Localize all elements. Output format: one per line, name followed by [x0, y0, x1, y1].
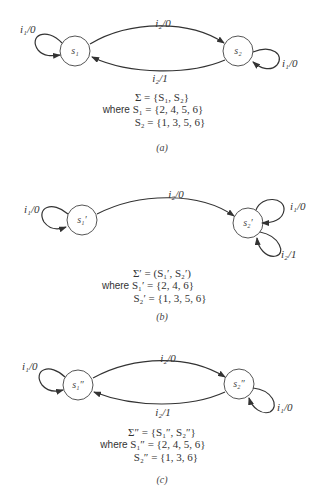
- equations-a: Σ = {S₁, S₂} where S₁ = {2, 4, 5, 6} S₂ …: [0, 91, 324, 128]
- caption-b: (b): [0, 311, 324, 322]
- state-s1-prime-label: s₁′: [77, 214, 87, 225]
- state-diagrams-canvas: s₁ s₂ i₁/0 i₂/0 i₂/1 i₁/0 s₁′ s₂′ i₁/0 i…: [0, 0, 324, 495]
- s1-set-b-line: where S₁′ = {2, 4, 6}: [0, 279, 324, 292]
- s1-set-a-line: where S₁ = {2, 4, 5, 6}: [0, 103, 324, 116]
- diagram-b: s₁′ s₂′ i₁/0 i₂/0 i₁/0 i₂/1: [24, 188, 306, 260]
- s2-double-prime-self-loop-arrow: [249, 388, 274, 413]
- s2-self-loop-label: i₁/0: [282, 57, 298, 69]
- s2-set-c: S₂″ = {1, 3, 6}: [8, 451, 324, 463]
- s2-self-loop-arrow: [253, 49, 279, 68]
- sigma-c: Σ″ = {S₁″, S₂″}: [0, 426, 324, 438]
- s1-prime-to-s2-prime-label: i₂/0: [168, 188, 184, 200]
- s2-prime-lower-self-loop-arrow: [257, 232, 281, 256]
- s1-set-c-line: where S₁″ = {2, 4, 5, 6}: [0, 438, 324, 451]
- caption-c: (c): [0, 474, 324, 485]
- sigma-b: Σ′ = (S₁′, S₂′): [0, 267, 324, 279]
- where-b: where: [102, 280, 129, 291]
- s2-double-prime-to-s1-double-prime-label: i₂/1: [155, 406, 170, 418]
- s1-to-s2-label: i₂/0: [155, 17, 171, 29]
- state-s1-label: s₁: [71, 45, 78, 56]
- s2-prime-upper-self-loop-arrow: [256, 199, 284, 223]
- state-s2-prime-label: s₂′: [243, 217, 253, 228]
- state-s1-double-prime-label: s₁″: [72, 379, 84, 390]
- where-c: where: [100, 439, 127, 450]
- s2-set-b: S₂′ = {1, 3, 5, 6}: [16, 292, 324, 304]
- diagram-a: s₁ s₂ i₁/0 i₂/0 i₂/1 i₁/0: [20, 17, 298, 84]
- s2-prime-lower-self-loop-label: i₂/1: [281, 248, 296, 260]
- s1-self-loop-arrow: [35, 34, 62, 56]
- s1-prime-self-loop-arrow: [42, 207, 68, 229]
- equations-b: Σ′ = (S₁′, S₂′) where S₁′ = {2, 4, 6} S₂…: [0, 267, 324, 304]
- caption-a: (a): [0, 142, 324, 153]
- s1-prime-to-s2-prime-arrow: [97, 198, 234, 216]
- s1-set-a: S₁ = {2, 4, 5, 6}: [133, 103, 204, 115]
- s2-to-s1-arrow: [92, 57, 225, 71]
- s1-double-prime-to-s2-double-prime-arrow: [93, 361, 225, 378]
- s2-to-s1-label: i₂/1: [152, 72, 167, 84]
- s1-double-prime-to-s2-double-prime-label: i₂/0: [160, 352, 176, 364]
- state-s2-double-prime-label: s₂″: [233, 378, 245, 389]
- s1-set-c: S₁″ = {2, 4, 5, 6}: [130, 438, 205, 450]
- s1-set-b: S₁′ = {2, 4, 6}: [132, 279, 194, 291]
- equations-c: Σ″ = {S₁″, S₂″} where S₁″ = {2, 4, 5, 6}…: [0, 426, 324, 463]
- sigma-a: Σ = {S₁, S₂}: [0, 91, 324, 103]
- state-s2-label: s₂: [234, 45, 242, 56]
- s1-double-prime-self-loop-arrow: [39, 369, 65, 391]
- s1-self-loop-label: i₁/0: [20, 23, 36, 35]
- where-a: where: [103, 104, 130, 115]
- s2-double-prime-to-s1-double-prime-arrow: [94, 392, 225, 404]
- s1-prime-self-loop-label: i₁/0: [24, 203, 40, 215]
- diagram-c: s₁″ s₂″ i₁/0 i₂/0 i₂/1 i₁/0: [22, 352, 293, 418]
- s2-prime-upper-self-loop-label: i₁/0: [290, 200, 306, 212]
- s2-set-a: S₂ = {1, 3, 5, 6}: [16, 116, 324, 128]
- s1-double-prime-self-loop-label: i₁/0: [22, 360, 38, 372]
- s2-double-prime-self-loop-label: i₁/0: [277, 401, 293, 413]
